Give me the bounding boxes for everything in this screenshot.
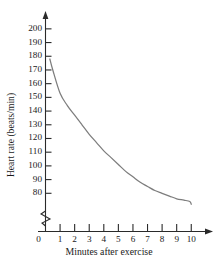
x-tick-label: 8 bbox=[160, 235, 165, 244]
x-axis-title: Minutes after exercise bbox=[0, 246, 218, 257]
x-tick-label: 4 bbox=[102, 235, 107, 244]
chart-figure: 8090100110120130140150160170180190200 01… bbox=[0, 0, 218, 264]
y-tick-label: 190 bbox=[6, 38, 42, 47]
x-tick-label: 6 bbox=[131, 235, 136, 244]
x-tick-label: 5 bbox=[116, 235, 121, 244]
y-tick-label: 200 bbox=[6, 24, 42, 33]
heart-rate-curve bbox=[50, 59, 191, 204]
x-tick-label: 9 bbox=[174, 235, 179, 244]
y-axis-arrowhead bbox=[43, 11, 49, 19]
y-tick-label: 170 bbox=[6, 65, 42, 74]
x-tick-label: 7 bbox=[145, 235, 150, 244]
x-tick-label: 0 bbox=[36, 235, 41, 244]
x-tick-label: 2 bbox=[72, 235, 77, 244]
x-tick-label: 1 bbox=[58, 235, 63, 244]
x-axis-ticks bbox=[60, 224, 191, 232]
x-axis-arrowhead bbox=[205, 229, 213, 235]
y-axis-ticks bbox=[46, 29, 52, 193]
x-tick-label: 3 bbox=[87, 235, 92, 244]
y-axis-title: Heart rate (beats/min) bbox=[6, 75, 16, 195]
x-tick-label: 10 bbox=[187, 235, 196, 244]
y-tick-label: 180 bbox=[6, 52, 42, 61]
